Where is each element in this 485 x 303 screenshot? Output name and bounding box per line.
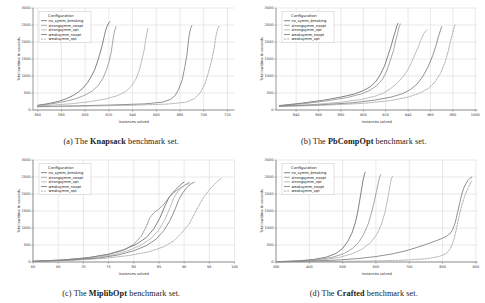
- svg-text:1500: 1500: [264, 209, 273, 213]
- svg-text:1000: 1000: [470, 113, 479, 117]
- svg-text:880: 880: [337, 113, 344, 117]
- legend-label-weaksymm_noopt: weaksymm_noopt: [49, 33, 82, 37]
- svg-text:400: 400: [305, 265, 312, 269]
- panel-c: 0500100015002000250030006065707580859095…: [0, 152, 243, 303]
- y-axis-title-a: Total runtime in seconds: [17, 37, 21, 82]
- svg-text:1500: 1500: [264, 57, 273, 61]
- figure-grid: 0500100015002000250030005605806006206406…: [0, 0, 485, 303]
- svg-text:800: 800: [439, 265, 446, 269]
- legend-label-weaksymm_noopt: weaksymm_noopt: [291, 184, 324, 188]
- svg-text:700: 700: [200, 113, 207, 117]
- caption-a: (a) The Knapsack benchmark set.: [0, 137, 243, 146]
- y-axis-ticks-a: 050010001500200025003000: [21, 6, 33, 112]
- svg-text:700: 700: [405, 265, 412, 269]
- x-axis-ticks-c: 6065707580859095100: [31, 262, 238, 269]
- legend-label-strongsymm_opt: strongsymm_opt: [49, 28, 80, 32]
- svg-text:Configuration: Configuration: [291, 164, 317, 169]
- plot-a: 0500100015002000250030005605806006206406…: [0, 0, 243, 136]
- svg-text:3000: 3000: [21, 158, 30, 162]
- svg-text:3000: 3000: [264, 158, 273, 162]
- legend-b: Configurationno_symm_breakingstrongsymm_…: [282, 12, 334, 43]
- svg-text:2000: 2000: [264, 192, 273, 196]
- y-axis-ticks-d: 050010001500200025003000: [264, 158, 276, 264]
- svg-text:3000: 3000: [264, 6, 273, 10]
- svg-text:0: 0: [28, 108, 30, 112]
- legend-label-no_symm_breaking: no_symm_breaking: [49, 19, 84, 23]
- caption-b-suffix: benchmark set.: [373, 137, 426, 146]
- caption-d-prefix: (d) The: [310, 289, 337, 298]
- svg-text:920: 920: [382, 113, 389, 117]
- legend-label-strongsymm_noopt: strongsymm_noopt: [49, 175, 84, 179]
- svg-text:80: 80: [132, 265, 136, 269]
- caption-a-suffix: benchmark set.: [126, 137, 179, 146]
- svg-text:Configuration: Configuration: [48, 164, 74, 169]
- y-axis-title-b: Total runtime in seconds: [259, 37, 263, 82]
- svg-text:1000: 1000: [21, 226, 30, 230]
- y-axis-ticks-b: 050010001500200025003000: [264, 6, 276, 112]
- svg-text:500: 500: [24, 91, 31, 95]
- svg-text:65: 65: [56, 265, 60, 269]
- svg-text:Configuration: Configuration: [291, 13, 317, 18]
- svg-text:2000: 2000: [21, 40, 30, 44]
- svg-text:980: 980: [449, 113, 456, 117]
- svg-text:2500: 2500: [21, 175, 30, 179]
- x-axis-title-b: Instances solved: [361, 120, 391, 124]
- legend-label-weaksymm_opt: weaksymm_opt: [291, 189, 320, 193]
- svg-text:0: 0: [271, 260, 273, 264]
- legend-label-strongsymm_noopt: strongsymm_noopt: [291, 175, 326, 179]
- svg-text:860: 860: [315, 113, 322, 117]
- svg-text:2000: 2000: [264, 40, 273, 44]
- svg-text:900: 900: [359, 113, 366, 117]
- legend-label-weaksymm_noopt: weaksymm_noopt: [49, 184, 82, 188]
- svg-text:2500: 2500: [21, 23, 30, 27]
- svg-text:Configuration: Configuration: [48, 13, 74, 18]
- legend-d: Configurationno_symm_breakingstrongsymm_…: [282, 163, 334, 194]
- svg-text:95: 95: [207, 265, 211, 269]
- legend-label-strongsymm_opt: strongsymm_opt: [49, 180, 80, 184]
- svg-text:100: 100: [231, 265, 238, 269]
- svg-text:840: 840: [292, 113, 299, 117]
- caption-d-suffix: benchmark set.: [365, 289, 418, 298]
- series-line-strongsymm_noopt: [33, 183, 189, 261]
- legend-label-strongsymm_noopt: strongsymm_noopt: [49, 24, 84, 28]
- svg-text:300: 300: [272, 265, 279, 269]
- svg-text:560: 560: [34, 113, 41, 117]
- svg-text:70: 70: [81, 265, 85, 269]
- svg-text:500: 500: [339, 265, 346, 269]
- svg-text:660: 660: [153, 113, 160, 117]
- svg-text:3000: 3000: [21, 6, 30, 10]
- caption-b-name: PbCompOpt: [328, 137, 373, 146]
- caption-c-suffix: benchmark set.: [127, 289, 180, 298]
- legend-label-strongsymm_noopt: strongsymm_noopt: [291, 24, 326, 28]
- y-axis-title-c: Total runtime in seconds: [17, 188, 21, 233]
- legend-a: Configurationno_symm_breakingstrongsymm_…: [39, 12, 91, 43]
- legend-label-no_symm_breaking: no_symm_breaking: [291, 170, 326, 174]
- chart-b: 0500100015002000250030008408608809009209…: [243, 0, 485, 136]
- svg-text:0: 0: [271, 108, 273, 112]
- svg-text:90: 90: [182, 265, 186, 269]
- legend-label-weaksymm_noopt: weaksymm_noopt: [291, 33, 324, 37]
- svg-text:1000: 1000: [21, 74, 30, 78]
- x-axis-ticks-d: 300400500600700800900: [272, 262, 479, 269]
- caption-c-prefix: (c) The: [62, 289, 89, 298]
- y-axis-ticks-c: 050010001500200025003000: [21, 158, 33, 264]
- panel-b: 0500100015002000250030008408608809009209…: [243, 0, 485, 152]
- legend-label-no_symm_breaking: no_symm_breaking: [291, 19, 326, 23]
- legend-label-weaksymm_opt: weaksymm_opt: [291, 37, 320, 41]
- svg-text:680: 680: [177, 113, 184, 117]
- legend-c: Configurationno_symm_breakingstrongsymm_…: [39, 163, 91, 194]
- svg-text:1000: 1000: [264, 74, 273, 78]
- x-axis-ticks-b: 8408608809009209409609801000: [292, 110, 479, 117]
- plot-c: 0500100015002000250030006065707580859095…: [0, 152, 243, 288]
- svg-text:600: 600: [372, 265, 379, 269]
- plot-b: 0500100015002000250030008408608809009209…: [243, 0, 485, 136]
- svg-text:720: 720: [224, 113, 231, 117]
- plot-d: 0500100015002000250030003004005006007008…: [243, 152, 485, 288]
- caption-d-name: Crafted: [337, 289, 365, 298]
- caption-c-name: MiplibOpt: [89, 289, 127, 298]
- caption-d: (d) The Crafted benchmark set.: [243, 289, 485, 298]
- svg-text:60: 60: [31, 265, 35, 269]
- svg-text:620: 620: [106, 113, 113, 117]
- svg-text:75: 75: [106, 265, 110, 269]
- svg-text:640: 640: [129, 113, 136, 117]
